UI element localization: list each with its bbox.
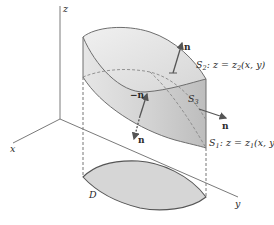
s1-label: S1: z = z1(x, y): [209, 137, 274, 150]
solid-region-diagram: z x y D n n −n n S2: z = z2(x, y): [0, 0, 274, 225]
region-d-label: D: [88, 189, 97, 200]
region-d: D: [83, 161, 206, 210]
z-axis-label: z: [62, 3, 69, 14]
x-axis-label: x: [10, 143, 16, 154]
s2-label: S2: z = z2(x, y): [196, 59, 266, 72]
x-axis: [13, 119, 60, 143]
normal-inner-up-label: −n: [130, 90, 145, 100]
y-axis-label: y: [234, 198, 241, 209]
normal-top-label: n: [184, 42, 191, 52]
normal-inner-down-label: n: [138, 135, 145, 145]
normal-side-label: n: [222, 121, 229, 131]
